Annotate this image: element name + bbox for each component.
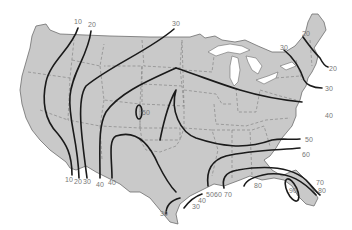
label-30-sw: 30 <box>83 178 91 185</box>
label-40-sw-b: 40 <box>108 179 116 186</box>
label-30-texas-b: 30 <box>192 203 200 210</box>
label-50-east: 50 <box>305 136 313 143</box>
label-50-gulf: 50 <box>206 191 214 198</box>
label-20-ne-right: 20 <box>329 65 337 72</box>
label-20-ne-top: 20 <box>302 30 310 37</box>
label-10-sw: 10 <box>65 176 73 183</box>
label-70-se: 70 <box>316 179 324 186</box>
label-40-sw-a: 40 <box>96 181 104 188</box>
label-colorado-loop: 50 <box>142 109 150 116</box>
label-20-sw: 20 <box>74 178 82 185</box>
label-60-se: 60 <box>302 151 310 158</box>
label-80-gulf: 80 <box>254 182 262 189</box>
label-10-nw: 10 <box>74 18 82 25</box>
label-70-gulf: 70 <box>224 191 232 198</box>
us-isoline-map: 10 20 30 20 30 20 30 40 50 60 70 80 80 9… <box>0 0 352 230</box>
label-30-ne-top: 30 <box>280 44 288 51</box>
label-90-florida: 90 <box>289 187 297 194</box>
label-30-ne-right: 30 <box>325 85 333 92</box>
label-80-se: 80 <box>318 187 326 194</box>
label-30-texas: 30 <box>160 210 168 217</box>
label-30-n: 30 <box>172 20 180 27</box>
label-40-east: 40 <box>325 112 333 119</box>
label-60-gulf: 60 <box>214 191 222 198</box>
label-20-nw: 20 <box>88 21 96 28</box>
